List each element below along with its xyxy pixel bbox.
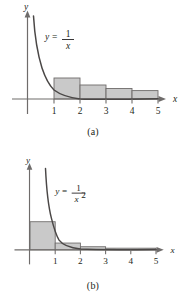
- equation-b-exponent: 2: [81, 190, 86, 200]
- figure-panel-a: 1 2 3 4 5 y x y = 1 x (a): [0, 0, 186, 148]
- x-axis-arrow-a: [159, 96, 167, 102]
- figure-panel-b: 1 2 3 4 5 y x y = 1 x 2 (b): [0, 150, 186, 306]
- x-ticks-b: [55, 250, 156, 254]
- tick-label-b-1: 1: [53, 256, 58, 266]
- rectangle-a-2: [80, 85, 106, 99]
- caption-b: (b): [0, 280, 186, 291]
- y-axis-label-b: y: [25, 155, 31, 165]
- tick-label-a-1: 1: [52, 106, 57, 116]
- equation-b-equals: =: [62, 186, 67, 196]
- tick-label-a-4: 4: [130, 106, 135, 116]
- tick-label-b-4: 4: [129, 256, 134, 266]
- tick-label-a-3: 3: [104, 106, 109, 116]
- tick-label-a-2: 2: [78, 106, 83, 116]
- tick-label-b-3: 3: [103, 256, 108, 266]
- caption-a: (a): [0, 126, 186, 137]
- x-axis-arrow-b: [156, 247, 163, 253]
- plot-b: 1 2 3 4 5 y x y = 1 x 2: [0, 150, 186, 276]
- tick-label-b-2: 2: [78, 256, 83, 266]
- plot-a: 1 2 3 4 5 y x y = 1 x: [0, 0, 186, 126]
- equation-a: y = 1 x: [44, 29, 74, 51]
- riemann-rectangles-b: [30, 222, 156, 250]
- equation-b-numerator: 1: [76, 183, 81, 193]
- y-axis-label-a: y: [23, 2, 29, 12]
- equation-b: y = 1 x 2: [54, 183, 86, 205]
- rectangle-a-4: [132, 91, 158, 99]
- curve-b: [46, 168, 156, 249]
- equation-b-lhs: y: [54, 186, 60, 196]
- equation-a-lhs: y: [44, 32, 50, 42]
- riemann-rectangles-a: [54, 78, 158, 99]
- equation-b-denominator: x: [73, 194, 79, 204]
- figure-improper-integrals: 1 2 3 4 5 y x y = 1 x (a): [0, 0, 186, 306]
- x-axis-label-b: x: [169, 245, 175, 255]
- x-axis-label-a: x: [172, 94, 178, 104]
- tick-label-a-5: 5: [156, 106, 161, 116]
- equation-a-numerator: 1: [66, 29, 71, 39]
- equation-a-denominator: x: [65, 41, 71, 51]
- equation-a-equals: =: [52, 32, 57, 42]
- tick-label-b-5: 5: [154, 256, 159, 266]
- rectangle-b-1: [30, 222, 55, 250]
- rectangle-a-3: [106, 89, 132, 100]
